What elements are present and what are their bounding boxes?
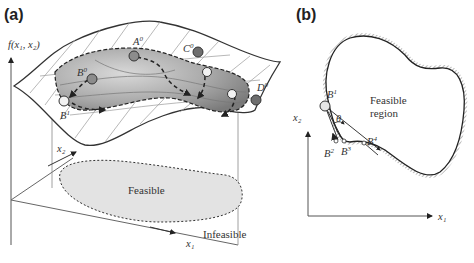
panel-b: (b) x₂ x₁ Feasible region θ B1 B2 — [292, 6, 464, 222]
x2-axis-label-b: x₂ — [292, 112, 302, 123]
f-axis-label: f(x₁, x₂) — [8, 39, 40, 51]
point-D0-label: D0 — [256, 81, 269, 93]
angle-theta: θ — [336, 113, 341, 124]
panel-b-label: (b) — [296, 6, 316, 23]
feasible-region-label-1: Feasible — [370, 94, 407, 106]
feasible-region-label-2: region — [370, 107, 399, 119]
point-B2-b: B2 — [324, 139, 338, 159]
x2-axis-label-a: x₂ — [56, 143, 66, 154]
x1-axis — [150, 227, 175, 233]
figure-canvas: (a) f(x₁, x₂) x₂ x₁ Feasible Infeasible — [0, 0, 474, 263]
infeasible-label: Infeasible — [203, 228, 246, 240]
point-B3-b-label: B3 — [341, 145, 351, 157]
point-B2-b-label: B2 — [324, 147, 334, 159]
x1-axis-label-b: x₁ — [437, 211, 446, 222]
panel-a: (a) f(x₁, x₂) x₂ x₁ Feasible Infeasible — [4, 6, 280, 249]
panel-a-label: (a) — [4, 6, 24, 23]
x1-axis-label-a: x₁ — [185, 238, 194, 249]
feasible-label-a: Feasible — [128, 184, 165, 196]
